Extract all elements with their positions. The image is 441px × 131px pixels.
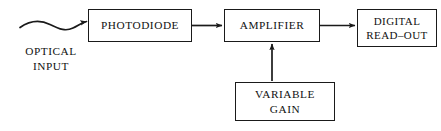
label-optical-input: OPTICAL INPUT	[8, 44, 94, 74]
block-photodiode: PHOTODIODE	[88, 9, 192, 42]
block-amplifier: AMPLIFIER	[224, 9, 320, 42]
block-digital-readout: DIGITAL READ–OUT	[357, 9, 437, 47]
optical-input-wave-connector	[20, 21, 87, 29]
block-variable-gain: VARIABLE GAIN	[235, 82, 335, 121]
block-diagram: PHOTODIODE AMPLIFIER DIGITAL READ–OUT VA…	[0, 0, 441, 131]
